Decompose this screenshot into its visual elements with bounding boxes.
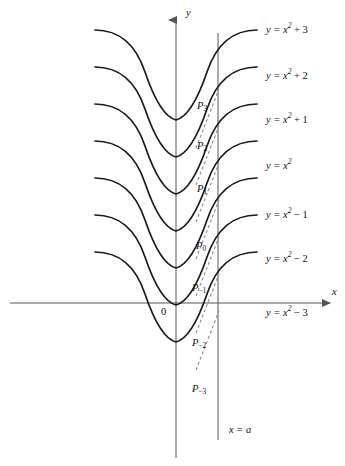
origin-label: 0 bbox=[161, 307, 166, 318]
curve-label-c2-suffix: + 2 bbox=[294, 70, 308, 81]
curve-label-cm1-suffix: − 1 bbox=[294, 209, 308, 220]
x-axis-label: x bbox=[332, 287, 337, 298]
curve-label-cm1-exponent: 2 bbox=[288, 206, 292, 215]
point-label-P3: P3 bbox=[197, 101, 207, 112]
point-label-P3-sub: 3 bbox=[203, 104, 207, 113]
curve-label-cm2-suffix: − 2 bbox=[294, 253, 308, 264]
tangent-at-P2 bbox=[196, 126, 219, 185]
curve-label-c3-exponent: 2 bbox=[288, 21, 292, 30]
point-label-Pm2: P−2 bbox=[192, 338, 206, 349]
x-equals-a-label: x = a bbox=[229, 425, 251, 436]
point-label-P1-sub: 1 bbox=[203, 187, 207, 196]
curve-label-cm1-prefix: y = x bbox=[266, 209, 288, 220]
curve-label-cm2-prefix: y = x bbox=[266, 253, 288, 264]
curve-label-c2-exponent: 2 bbox=[288, 67, 292, 76]
curve-label-cm3: y = x2 − 3 bbox=[266, 305, 308, 318]
curve-label-c1-exponent: 2 bbox=[288, 111, 292, 120]
point-label-Pm3: P−3 bbox=[192, 384, 206, 395]
curve-label-c3-suffix: + 3 bbox=[294, 24, 308, 35]
point-label-Pm3-sub: −3 bbox=[198, 387, 206, 396]
curve-label-c0: y = x2 bbox=[266, 158, 291, 171]
curve-label-c1: y = x2 + 1 bbox=[266, 112, 308, 125]
curve-label-cm2-exponent: 2 bbox=[288, 250, 292, 259]
curve-label-cm3-suffix: − 3 bbox=[294, 307, 308, 318]
point-label-Pm1: P−1 bbox=[192, 283, 206, 294]
curve-label-c2-prefix: y = x bbox=[266, 70, 288, 81]
point-label-P2-sub: 2 bbox=[203, 144, 207, 153]
point-label-P1: P1 bbox=[197, 184, 207, 195]
curve-label-c2: y = x2 + 2 bbox=[266, 68, 308, 81]
curve-label-cm2: y = x2 − 2 bbox=[266, 251, 308, 264]
point-label-P2: P2 bbox=[197, 141, 207, 152]
tangent-dashed-segments bbox=[196, 89, 219, 370]
point-label-Pm2-sub: −2 bbox=[198, 341, 206, 350]
curve-label-c1-prefix: y = x bbox=[266, 114, 288, 125]
curve-label-cm1: y = x2 − 1 bbox=[266, 207, 308, 220]
point-label-P0: P0 bbox=[196, 241, 206, 252]
curve-label-c0-exponent: 2 bbox=[288, 157, 292, 166]
y-axis-label: y bbox=[186, 8, 191, 19]
curve-label-c0-prefix: y = x bbox=[266, 160, 288, 171]
point-label-Pm1-sub: −1 bbox=[198, 286, 206, 295]
parabola-family-figure: y x 0 x = a y = x2 + 3 y = x2 + 2 y = x2… bbox=[0, 0, 345, 466]
curve-label-c3: y = x2 + 3 bbox=[266, 22, 308, 35]
curve-label-cm3-prefix: y = x bbox=[266, 307, 288, 318]
curve-label-cm3-exponent: 2 bbox=[288, 304, 292, 313]
point-label-P0-sub: 0 bbox=[202, 244, 206, 253]
curve-label-c1-suffix: + 1 bbox=[294, 114, 308, 125]
curve-label-c3-prefix: y = x bbox=[266, 24, 288, 35]
axes-group bbox=[10, 20, 330, 458]
